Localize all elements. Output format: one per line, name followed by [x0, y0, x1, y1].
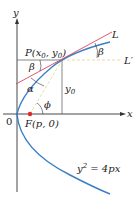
l-prime-label: L′	[123, 55, 134, 66]
y-axis-label: y	[12, 7, 19, 18]
parabola-reflection-diagram: y x 0 P(x0, y0) L L′ β β α ϕ y0 F(p, 0) …	[0, 0, 139, 199]
beta-left-arc	[40, 60, 41, 71]
beta-left-label: β	[28, 61, 35, 72]
origin-label: 0	[6, 116, 12, 127]
equation-label: y2 = 4px	[76, 162, 121, 174]
focus-point	[28, 112, 32, 116]
tangent-line-l	[16, 32, 112, 84]
tangent-label: L	[111, 29, 119, 40]
diagram-canvas: y x 0 P(x0, y0) L L′ β β α ϕ y0 F(p, 0) …	[0, 0, 139, 199]
point-p-label: P(x0, y0)	[24, 47, 66, 60]
x-axis-label: x	[127, 108, 133, 119]
x-axis-arrow-icon	[120, 112, 126, 116]
phi-label: ϕ	[44, 99, 51, 110]
phi-arc	[37, 103, 43, 114]
y-axis-arrow-icon	[15, 18, 19, 24]
y0-label: y0	[64, 83, 76, 96]
alpha-label: α	[27, 83, 34, 94]
focus-label: F(p, 0)	[24, 118, 59, 129]
beta-top-label: β	[97, 46, 104, 57]
